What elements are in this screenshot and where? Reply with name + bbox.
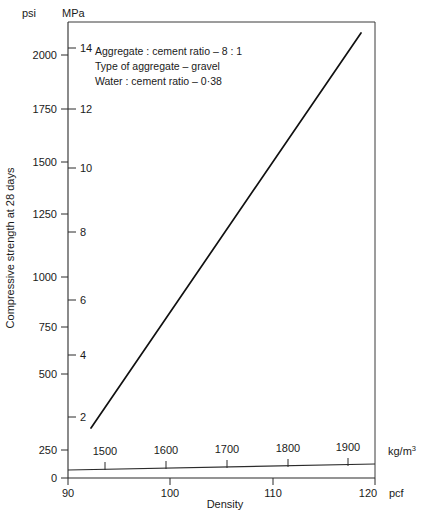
kgm3-tick-label: 1600 bbox=[154, 444, 178, 456]
annotation-line: Aggregate : cement ratio – 8 : 1 bbox=[95, 45, 242, 57]
pcf-tick-label: 100 bbox=[161, 487, 179, 499]
pcf-tick-label: 90 bbox=[62, 487, 74, 499]
psi-unit-header: psi bbox=[22, 7, 36, 19]
y-axis-psi-ticks bbox=[61, 55, 68, 478]
psi-tick-label: 0 bbox=[51, 472, 57, 484]
data-series-line bbox=[91, 33, 361, 428]
x-axis-title: Density bbox=[207, 498, 244, 510]
psi-tick-label: 1000 bbox=[33, 271, 57, 283]
mpa-tick-label: 14 bbox=[80, 42, 92, 54]
mpa-tick-label: 4 bbox=[80, 349, 86, 361]
plot-frame bbox=[68, 22, 375, 478]
psi-tick-label: 1250 bbox=[33, 208, 57, 220]
x-axis-kgm3-labels: 1500 1600 1700 1800 1900 bbox=[93, 441, 360, 457]
y-axis-mpa-ticks bbox=[68, 48, 76, 417]
annotation-line: Type of aggregate – gravel bbox=[95, 60, 220, 72]
kgm3-unit-label: kg/m3 bbox=[388, 444, 416, 457]
mpa-tick-label: 12 bbox=[80, 103, 92, 115]
mpa-unit-header: MPa bbox=[62, 7, 86, 19]
kgm3-tick-label: 1900 bbox=[336, 441, 360, 453]
pcf-unit-label: pcf bbox=[389, 487, 405, 499]
pcf-tick-label: 120 bbox=[359, 487, 377, 499]
chart-figure: 0 250 500 750 1000 1250 1500 1750 2000 2… bbox=[0, 0, 423, 516]
annotation-line: Water : cement ratio – 0·38 bbox=[95, 75, 222, 87]
y-axis-mpa-labels: 2 4 6 8 10 12 14 bbox=[80, 42, 92, 423]
psi-tick-label: 1500 bbox=[33, 156, 57, 168]
psi-tick-label: 2000 bbox=[33, 49, 57, 61]
mpa-tick-label: 8 bbox=[80, 226, 86, 238]
kgm3-tick-label: 1700 bbox=[215, 443, 239, 455]
psi-tick-label: 750 bbox=[39, 321, 57, 333]
mpa-tick-label: 2 bbox=[80, 411, 86, 423]
kgm3-tick-label: 1500 bbox=[93, 445, 117, 457]
y-axis-psi-labels: 0 250 500 750 1000 1250 1500 1750 2000 bbox=[33, 49, 57, 484]
annotation-block: Aggregate : cement ratio – 8 : 1 Type of… bbox=[95, 45, 242, 87]
kgm3-tick-label: 1800 bbox=[276, 442, 300, 454]
mpa-tick-label: 6 bbox=[80, 294, 86, 306]
pcf-tick-label: 110 bbox=[264, 487, 282, 499]
mpa-tick-label: 10 bbox=[80, 162, 92, 174]
x-axis-kgm3-spine bbox=[68, 464, 375, 470]
psi-tick-label: 250 bbox=[39, 444, 57, 456]
psi-tick-label: 1750 bbox=[33, 103, 57, 115]
chart-canvas: 0 250 500 750 1000 1250 1500 1750 2000 2… bbox=[0, 0, 423, 516]
psi-tick-label: 500 bbox=[39, 368, 57, 380]
x-axis-pcf-ticks bbox=[68, 478, 375, 485]
y-axis-title: Compressive strength at 28 days bbox=[4, 167, 16, 328]
